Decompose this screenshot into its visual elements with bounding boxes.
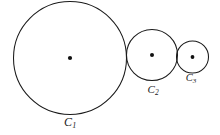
circle-c3-center-dot: [191, 55, 195, 59]
circle-c1-label-base: C: [64, 115, 72, 129]
circle-c2-center-dot: [150, 53, 154, 57]
circle-c3-label: C3: [186, 73, 197, 84]
circle-c2-label: C2: [147, 84, 158, 95]
circle-c3-label-base: C: [186, 72, 193, 83]
circle-c1-center-dot: [68, 56, 72, 60]
circles-canvas: [0, 0, 220, 135]
circle-c2-label-subscript: 2: [155, 88, 159, 97]
geometry-figure: C1 C2 C3: [0, 0, 220, 135]
circle-c1-label-subscript: 1: [72, 121, 76, 130]
circle-c3-label-subscript: 3: [193, 77, 197, 85]
circle-c1-label: C1: [64, 116, 76, 128]
